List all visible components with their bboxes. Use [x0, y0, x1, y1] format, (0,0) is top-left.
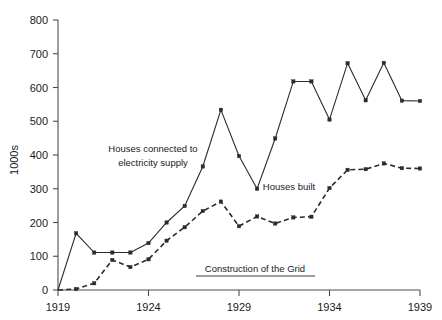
data-point-marker [129, 251, 132, 254]
data-point-marker [328, 118, 331, 121]
data-point-marker [129, 265, 132, 268]
data-point-marker [93, 251, 96, 254]
data-point-marker [255, 215, 258, 218]
data-point-marker [418, 99, 421, 102]
series-label-electricity-line1: Houses connected to [108, 143, 197, 154]
data-point-marker [382, 162, 385, 165]
data-point-marker [111, 251, 114, 254]
x-axis-group: 19191924192919341939 [46, 290, 432, 313]
y-tick-label: 700 [30, 48, 48, 60]
x-tick-label: 1934 [317, 301, 341, 313]
x-axis-tick-labels: 19191924192919341939 [46, 301, 432, 313]
series-label-houses-built: Houses built [263, 181, 316, 192]
data-point-marker [382, 61, 385, 64]
data-point-marker [165, 239, 168, 242]
data-point-marker [274, 137, 277, 140]
data-point-marker [346, 62, 349, 65]
annotation-construction-of-grid: Construction of the Grid [205, 263, 305, 274]
data-point-marker [219, 108, 222, 111]
line-chart: 0100200300400500600700800 1000s 19191924… [0, 0, 442, 320]
x-axis-ticks [58, 290, 420, 296]
data-point-marker [364, 167, 367, 170]
y-tick-label: 200 [30, 217, 48, 229]
data-point-marker [400, 166, 403, 169]
series-line-houses-connected [58, 63, 420, 290]
data-point-marker [255, 187, 258, 190]
data-point-marker [111, 258, 114, 261]
data-point-marker [201, 209, 204, 212]
y-axis-tick-labels: 0100200300400500600700800 [30, 14, 48, 296]
series-label-electricity-line2: electricity supply [118, 157, 188, 168]
data-point-marker [147, 258, 150, 261]
y-tick-label: 600 [30, 82, 48, 94]
data-point-marker [183, 204, 186, 207]
y-tick-label: 800 [30, 14, 48, 26]
y-tick-label: 500 [30, 115, 48, 127]
y-tick-label: 400 [30, 149, 48, 161]
data-point-marker [165, 221, 168, 224]
data-point-marker [93, 282, 96, 285]
annotations-group: Houses connected to electricity supply H… [108, 143, 315, 276]
data-point-marker [74, 287, 77, 290]
data-point-marker [183, 226, 186, 229]
data-point-marker [292, 216, 295, 219]
data-point-marker [147, 241, 150, 244]
data-point-marker [418, 167, 421, 170]
data-point-marker [274, 222, 277, 225]
data-point-marker [364, 99, 367, 102]
data-point-marker [328, 186, 331, 189]
y-axis-ticks [53, 20, 58, 290]
chart-container: 0100200300400500600700800 1000s 19191924… [0, 0, 442, 320]
data-point-marker [346, 168, 349, 171]
y-axis-title: 1000s [8, 145, 20, 175]
data-point-marker [310, 80, 313, 83]
y-tick-label: 100 [30, 250, 48, 262]
data-point-marker [201, 165, 204, 168]
x-tick-label: 1924 [136, 301, 160, 313]
y-tick-label: 300 [30, 183, 48, 195]
x-tick-label: 1939 [408, 301, 432, 313]
series-group [58, 61, 422, 291]
y-axis-group: 0100200300400500600700800 1000s [8, 14, 58, 296]
data-point-marker [310, 215, 313, 218]
data-point-marker [400, 99, 403, 102]
data-point-marker [219, 200, 222, 203]
x-tick-label: 1919 [46, 301, 70, 313]
x-tick-label: 1929 [227, 301, 251, 313]
data-point-marker [292, 80, 295, 83]
data-point-marker [74, 232, 77, 235]
data-point-marker [237, 225, 240, 228]
data-point-marker [237, 154, 240, 157]
y-tick-label: 0 [42, 284, 48, 296]
